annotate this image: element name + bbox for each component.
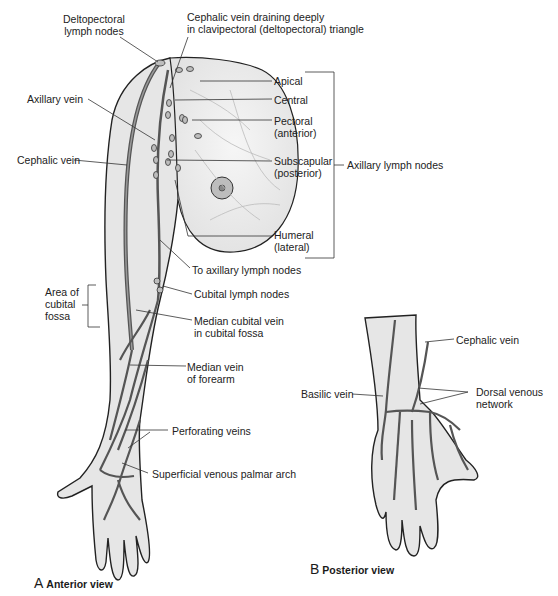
label-median-cubital-vein: Median cubital vein in cubital fossa bbox=[194, 315, 284, 339]
label-deltopectoral-lymph-nodes: Deltopectoral lymph nodes bbox=[63, 13, 125, 37]
label-cephalic-vein-posterior: Cephalic vein bbox=[456, 334, 519, 346]
label-cephalic-vein-draining-deeply: Cephalic vein draining deeply in clavipe… bbox=[187, 11, 364, 35]
label-subscapular-posterior: Subscapular (posterior) bbox=[274, 155, 332, 179]
panel-title-b: Posterior view bbox=[322, 564, 394, 576]
label-area-of-cubital-fossa: Area of cubital fossa bbox=[45, 286, 79, 322]
label-axillary-vein: Axillary vein bbox=[27, 93, 83, 105]
label-dorsal-venous-network: Dorsal venous network bbox=[476, 386, 543, 410]
label-cephalic-vein-anterior: Cephalic vein bbox=[17, 154, 80, 166]
posterior-hand bbox=[365, 315, 478, 556]
caption-anterior-view: AAnterior view bbox=[34, 575, 113, 591]
label-cubital-lymph-nodes: Cubital lymph nodes bbox=[194, 288, 289, 300]
label-axillary-lymph-nodes: Axillary lymph nodes bbox=[347, 159, 443, 171]
label-superficial-venous-palmar-arch: Superficial venous palmar arch bbox=[152, 468, 296, 480]
label-central: Central bbox=[274, 94, 308, 106]
panel-title-a: Anterior view bbox=[46, 578, 113, 590]
label-pectoral-anterior: Pectoral (anterior) bbox=[274, 115, 317, 139]
label-humeral-lateral: Humeral (lateral) bbox=[274, 229, 314, 253]
panel-letter-b: B bbox=[310, 561, 319, 577]
caption-posterior-view: BPosterior view bbox=[310, 561, 394, 577]
panel-letter-a: A bbox=[34, 575, 43, 591]
label-to-axillary-lymph-nodes: To axillary lymph nodes bbox=[192, 264, 301, 276]
label-median-vein-of-forearm: Median vein of forearm bbox=[187, 361, 244, 385]
label-basilic-vein: Basilic vein bbox=[301, 388, 354, 400]
label-perforating-veins: Perforating veins bbox=[172, 425, 251, 437]
label-apical: Apical bbox=[274, 75, 303, 87]
